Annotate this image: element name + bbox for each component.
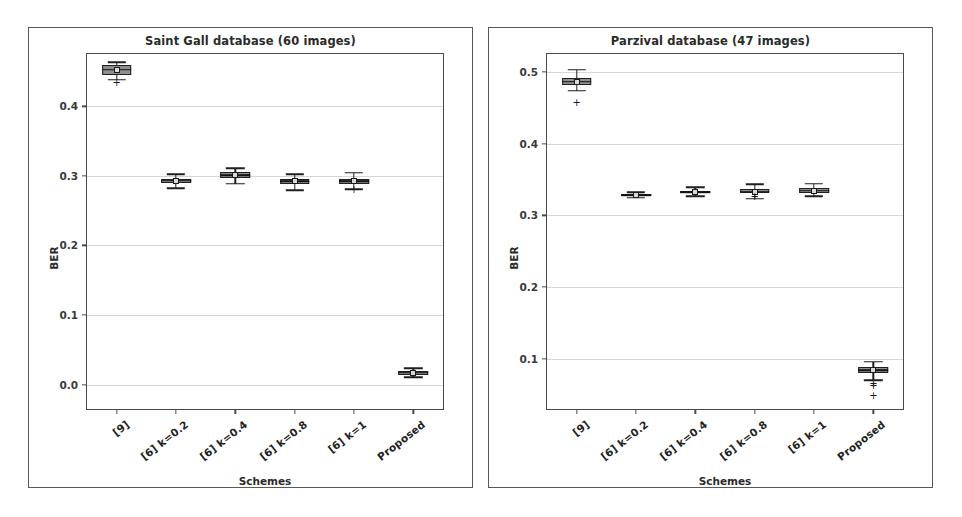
y-tick-mark [82,175,87,176]
mean-marker [633,192,639,198]
whisker-cap-upper [745,183,763,185]
y-axis-label: BER [48,246,60,269]
whisker-cap-lower [285,189,303,191]
x-axis-label: Schemes [86,475,444,487]
y-tick-label: 0.1 [59,309,78,321]
y-tick-label: 0.3 [59,170,78,182]
x-tick-label: [9] [570,418,591,438]
panel-title: Parzival database (47 images) [489,34,932,48]
gridline [87,385,443,386]
y-tick-label: 0.2 [519,281,538,293]
mean-marker [410,370,416,376]
figure-panel-parzival: Parzival database (47 images) BER 0.10.2… [488,27,933,488]
mean-marker [232,172,238,178]
whisker-cap-lower [226,183,244,185]
x-tick-mark [175,409,176,414]
whisker-cap-upper [226,167,244,169]
mean-marker [870,367,876,373]
mean-marker [114,67,120,73]
x-tick-label: [6] k=0.4 [658,418,710,462]
plot-area: 0.00.10.20.30.4[9][6] k=0.2[6] k=0.4[6] … [86,53,444,410]
whisker-cap-lower [404,377,422,379]
whisker-cap-upper [345,172,363,174]
gridline [87,106,443,107]
plot-area: 0.10.20.30.40.5[9][6] k=0.2[6] k=0.4[6] … [546,53,904,410]
x-tick-label: [6] k=0.2 [138,418,190,462]
outlier-marker: + [869,391,877,401]
x-tick-label: Proposed [375,418,428,463]
gridline [547,144,903,145]
x-axis-label: Schemes [546,475,904,487]
whisker-cap-lower [686,196,704,198]
y-tick-label: 0.0 [59,379,78,391]
x-tick-mark [116,409,117,414]
mean-marker [692,189,698,195]
whisker-upper [576,70,577,78]
x-tick-mark [353,409,354,414]
x-tick-label: [6] k=0.8 [717,418,769,462]
y-tick-mark [542,71,547,72]
whisker-cap-upper [107,61,125,63]
y-tick-label: 0.4 [59,100,78,112]
gridline [87,315,443,316]
whisker-cap-upper [167,173,185,175]
x-tick-mark [576,409,577,414]
figure-panel-saint-gall: Saint Gall database (60 images) BER 0.00… [28,27,473,488]
panel-title: Saint Gall database (60 images) [29,34,472,48]
whisker-cap-lower [805,196,823,198]
whisker-cap-lower [567,90,585,92]
mean-marker [811,188,817,194]
outlier-marker: + [112,78,120,88]
y-tick-label: 0.2 [59,239,78,251]
whisker-cap-upper [864,361,882,363]
whisker-cap-upper [686,187,704,189]
y-tick-label: 0.4 [519,138,538,150]
gridline [87,176,443,177]
y-tick-mark [82,245,87,246]
gridline [547,72,903,73]
x-tick-mark [235,409,236,414]
x-tick-mark [873,409,874,414]
gridline [547,287,903,288]
whisker-cap-lower [167,188,185,190]
gridline [87,245,443,246]
x-tick-mark [413,409,414,414]
whisker-cap-upper [805,183,823,185]
y-tick-mark [82,384,87,385]
whisker-cap-upper [285,174,303,176]
outlier-marker: + [572,98,580,108]
x-tick-mark [294,409,295,414]
x-tick-mark [813,409,814,414]
x-tick-label: [6] k=0.8 [257,418,309,462]
y-tick-mark [82,106,87,107]
mean-marker [173,178,179,184]
y-tick-mark [542,358,547,359]
x-tick-label: Proposed [835,418,888,463]
x-tick-label: [6] k=0.4 [198,418,250,462]
whisker-cap-upper [404,368,422,370]
outlier-marker: + [350,185,358,195]
x-tick-mark [635,409,636,414]
x-tick-label: [6] k=1 [786,418,829,455]
x-tick-label: [9] [110,418,131,438]
figure-row: Saint Gall database (60 images) BER 0.00… [0,0,962,517]
x-tick-mark [695,409,696,414]
y-tick-mark [82,314,87,315]
y-tick-label: 0.1 [519,353,538,365]
mean-marker [574,79,580,85]
y-tick-mark [542,286,547,287]
y-axis-label: BER [508,246,520,269]
mean-marker [292,178,298,184]
y-tick-label: 0.5 [519,66,538,78]
y-tick-mark [542,143,547,144]
x-tick-mark [754,409,755,414]
outlier-marker: + [750,192,758,202]
x-tick-label: [6] k=0.2 [598,418,650,462]
x-tick-label: [6] k=1 [326,418,369,455]
y-tick-mark [542,215,547,216]
gridline [547,215,903,216]
whisker-cap-upper [567,69,585,71]
gridline [547,359,903,360]
y-tick-label: 0.3 [519,209,538,221]
